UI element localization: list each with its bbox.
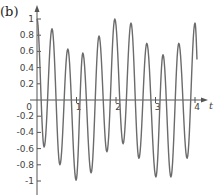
x-axis-arrow-icon [201, 98, 208, 103]
y-tick-label: -0.8 [16, 160, 34, 170]
line-chart: t 0123410.80.60.40.2-0.2-0.4-0.6-0.8-1 [0, 0, 217, 195]
y-tick-label: 1 [28, 14, 34, 24]
axes: t [30, 5, 214, 195]
x-tick-label: 4 [194, 102, 200, 112]
y-tick-label: 0.2 [20, 79, 34, 89]
y-tick-label: -0.4 [16, 127, 34, 137]
y-tick-label: 0.6 [20, 46, 35, 56]
y-tick-label: 0.8 [20, 30, 35, 40]
y-tick-label: -0.6 [16, 144, 34, 154]
x-axis-label: t [209, 100, 214, 111]
y-tick-label: 0.4 [20, 63, 35, 73]
y-tick-label: -0.2 [16, 111, 34, 121]
y-axis-arrow-icon [35, 5, 40, 12]
y-tick-label: -1 [25, 176, 34, 186]
